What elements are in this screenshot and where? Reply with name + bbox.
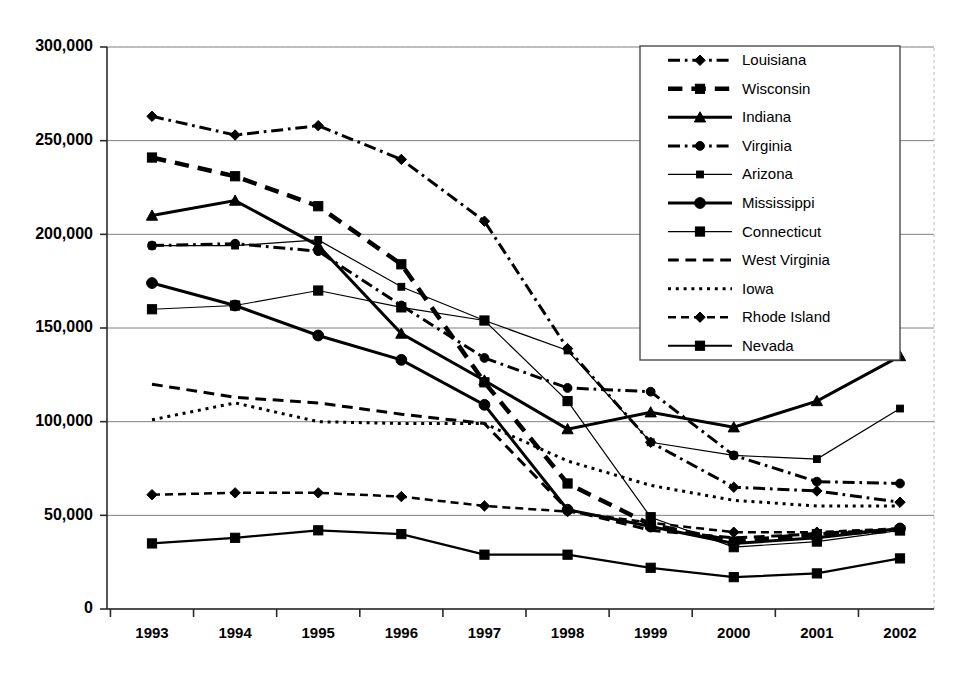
- data-point-marker: [231, 301, 240, 310]
- data-point-marker: [812, 569, 821, 578]
- data-point-marker: [231, 172, 240, 181]
- data-point-marker: [563, 396, 572, 405]
- y-tick-label: 50,000: [44, 506, 93, 523]
- legend-label: West Virginia: [742, 251, 830, 268]
- line-chart: 050,000100,000150,000200,000250,000300,0…: [0, 0, 962, 679]
- legend-label: Wisconsin: [742, 80, 810, 97]
- y-tick-label: 200,000: [35, 225, 93, 242]
- legend-label: Virginia: [742, 137, 792, 154]
- data-point-marker: [695, 198, 706, 209]
- data-point-marker: [314, 202, 323, 211]
- data-point-marker: [397, 260, 406, 269]
- data-point-marker: [147, 278, 158, 289]
- y-tick-label: 250,000: [35, 131, 93, 148]
- data-point-marker: [563, 479, 572, 488]
- legend-label: Mississippi: [742, 194, 815, 211]
- chart-canvas: 050,000100,000150,000200,000250,000300,0…: [0, 0, 962, 679]
- y-tick-label: 100,000: [35, 412, 93, 429]
- x-tick-label: 1995: [302, 624, 335, 641]
- data-point-marker: [812, 477, 821, 486]
- data-point-marker: [729, 543, 738, 552]
- data-point-marker: [646, 387, 655, 396]
- data-point-marker: [646, 563, 655, 572]
- data-point-marker: [729, 573, 738, 582]
- data-point-marker: [813, 456, 820, 463]
- data-point-marker: [647, 439, 654, 446]
- chart-legend[interactable]: LouisianaWisconsinIndianaVirginiaArizona…: [640, 46, 900, 360]
- data-point-marker: [697, 171, 704, 178]
- data-point-marker: [897, 405, 904, 412]
- data-point-marker: [147, 539, 156, 548]
- data-point-marker: [563, 550, 572, 559]
- x-tick-label: 2000: [717, 624, 750, 641]
- data-point-marker: [149, 242, 156, 249]
- data-point-marker: [812, 537, 821, 546]
- x-tick-label: 1998: [551, 624, 584, 641]
- legend-label: Rhode Island: [742, 308, 830, 325]
- data-point-marker: [315, 237, 322, 244]
- x-tick-label: 2001: [800, 624, 833, 641]
- data-point-marker: [896, 479, 905, 488]
- x-tick-label: 1996: [385, 624, 418, 641]
- data-point-marker: [480, 354, 489, 363]
- data-point-marker: [563, 384, 572, 393]
- data-point-marker: [232, 242, 239, 249]
- x-tick-label: 1997: [468, 624, 501, 641]
- data-point-marker: [730, 452, 737, 459]
- legend-label: Louisiana: [742, 51, 807, 68]
- data-point-marker: [564, 347, 571, 354]
- data-point-marker: [695, 227, 704, 236]
- data-point-marker: [480, 550, 489, 559]
- legend-label: Nevada: [742, 337, 794, 354]
- legend-label: Arizona: [742, 165, 794, 182]
- x-tick-label: 2002: [883, 624, 916, 641]
- data-point-marker: [314, 526, 323, 535]
- legend-label: Connecticut: [742, 223, 822, 240]
- x-tick-label: 1993: [135, 624, 168, 641]
- x-tick-label: 1994: [218, 624, 252, 641]
- legend-label: Iowa: [742, 280, 774, 297]
- y-tick-label: 300,000: [35, 37, 93, 54]
- y-tick-label: 0: [84, 599, 93, 616]
- data-point-marker: [313, 330, 324, 341]
- data-point-marker: [398, 283, 405, 290]
- data-point-marker: [147, 153, 156, 162]
- data-point-marker: [397, 303, 406, 312]
- data-point-marker: [695, 84, 704, 93]
- data-point-marker: [314, 247, 323, 256]
- data-point-marker: [147, 305, 156, 314]
- x-tick-label: 1999: [634, 624, 667, 641]
- data-point-marker: [480, 316, 489, 325]
- data-point-marker: [231, 533, 240, 542]
- data-point-marker: [895, 554, 904, 563]
- legend-label: Indiana: [742, 108, 792, 125]
- y-tick-label: 150,000: [35, 318, 93, 335]
- data-point-marker: [397, 529, 406, 538]
- data-point-marker: [479, 399, 490, 410]
- data-point-marker: [396, 354, 407, 365]
- data-point-marker: [314, 286, 323, 295]
- data-point-marker: [695, 341, 704, 350]
- data-point-marker: [696, 142, 705, 151]
